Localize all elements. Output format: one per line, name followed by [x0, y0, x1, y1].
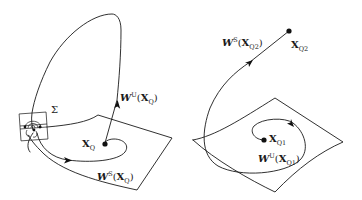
fixed-point-xq-dot: [102, 141, 107, 146]
heteroclinic-trajectory: [204, 31, 305, 173]
wu-xq1-label: WU(XQ1): [258, 152, 300, 167]
ws-xq-label: WS(XQ): [97, 170, 134, 185]
wu-xq-label: WU(XQ): [120, 91, 158, 106]
fixed-point-xq1-dot: [261, 137, 266, 142]
right-plane-surface: [193, 98, 343, 192]
poincare-section-box: [19, 112, 48, 141]
stable-arrow-icon: [64, 157, 72, 164]
left-panel: Σ XQ WU(XQ) WS(XQ): [19, 14, 172, 190]
section-intersection-dot: [24, 126, 27, 129]
homoclinic-heteroclinic-diagram: Σ XQ WU(XQ) WS(XQ) WS(XQ2) XQ2: [0, 0, 362, 200]
stable-q2-arrow-icon: [245, 60, 253, 67]
section-inner-hooks: [26, 130, 37, 137]
ws-xq2-label: WS(XQ2): [222, 36, 263, 51]
sigma-label: Σ: [51, 104, 58, 115]
xq-label: XQ: [82, 138, 95, 152]
unstable-manifold-loop: [32, 14, 121, 143]
right-panel: WS(XQ2) XQ2 XQ1 WU(XQ1): [193, 28, 343, 192]
section-intersection-dot: [39, 126, 42, 129]
fixed-point-xq2-dot: [286, 28, 291, 33]
xq1-label: XQ1: [269, 133, 286, 147]
xq2-label: XQ2: [291, 39, 308, 53]
